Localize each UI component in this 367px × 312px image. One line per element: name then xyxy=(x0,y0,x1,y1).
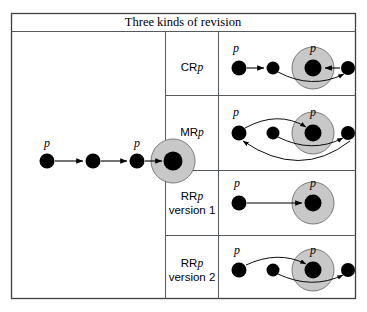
world-node xyxy=(130,154,145,169)
world-node xyxy=(267,62,280,75)
row-label-rrp2-line2: version 2 xyxy=(169,271,216,283)
row-label-prefix: RR xyxy=(181,190,198,202)
node-label-p: p xyxy=(233,176,240,190)
node-label-p: p xyxy=(309,41,316,55)
world-node xyxy=(341,61,355,75)
node-label-p: p xyxy=(43,136,50,150)
world-node xyxy=(305,60,322,77)
world-node xyxy=(267,127,280,140)
node-label-p: p xyxy=(232,41,239,55)
world-node xyxy=(341,126,355,140)
row-label-prefix: CR xyxy=(181,61,198,73)
world-node xyxy=(341,263,355,277)
node-label-p: p xyxy=(309,243,316,257)
node-label-p: p xyxy=(133,136,140,150)
world-node xyxy=(232,263,247,278)
row-label-suffix: p xyxy=(196,257,203,270)
world-node xyxy=(305,125,322,142)
world-node xyxy=(232,196,247,211)
world-node xyxy=(305,195,322,212)
row-label-suffix: p xyxy=(196,190,203,203)
world-node xyxy=(86,154,101,169)
row-label-suffix: p xyxy=(196,61,203,74)
world-node xyxy=(232,61,247,76)
figure-title: Three kinds of revision xyxy=(125,15,242,29)
row-label-rrp1-line1: RRp xyxy=(181,190,204,203)
world-node xyxy=(164,152,183,171)
world-node xyxy=(40,154,55,169)
row-label-rrp1-line2: version 1 xyxy=(169,204,216,216)
node-label-p: p xyxy=(232,105,239,119)
row-label-prefix: MR xyxy=(180,126,198,138)
row-label-prefix: RR xyxy=(181,257,198,269)
row-label-rrp2-line1: RRp xyxy=(181,257,204,270)
figure-canvas: Three kinds of revision p p CRp xyxy=(0,0,367,312)
row-label-mrp: MRp xyxy=(180,126,204,139)
node-label-p: p xyxy=(309,105,316,119)
node-label-p: p xyxy=(309,176,316,190)
row-label-suffix: p xyxy=(197,126,204,139)
node-label-p: p xyxy=(233,243,240,257)
world-node xyxy=(232,126,247,141)
world-node xyxy=(267,264,280,277)
world-node xyxy=(305,262,322,279)
row-label-crp: CRp xyxy=(181,61,204,74)
